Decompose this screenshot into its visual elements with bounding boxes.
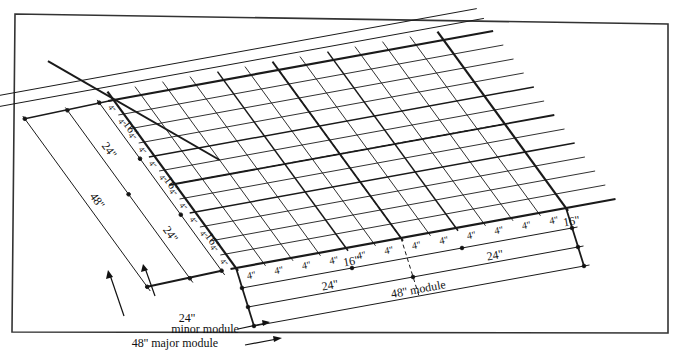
grid-line-depth xyxy=(382,42,513,221)
dim-tick xyxy=(179,213,183,217)
dim-tick xyxy=(460,246,464,250)
front-dimension-line xyxy=(248,246,584,307)
minor-module-arrow xyxy=(238,323,266,329)
left-arrow-1 xyxy=(110,275,124,316)
left-arrow-head-1 xyxy=(106,270,113,279)
grid-line-width xyxy=(129,59,514,129)
left-extension-line xyxy=(25,100,114,119)
grid-line-width xyxy=(0,18,484,110)
grid-line-depth xyxy=(437,32,568,211)
front-dim-16: 16'' xyxy=(562,213,581,230)
grid-line-width xyxy=(159,101,544,171)
left-arrow-2 xyxy=(145,268,155,296)
grid-line-depth xyxy=(217,72,348,251)
front-edge-label: 4'' xyxy=(493,224,504,236)
grid-line-depth xyxy=(327,52,458,231)
dimension-lines xyxy=(23,100,590,328)
grid-line-depth xyxy=(355,47,486,226)
front-edge-label: 4'' xyxy=(246,269,257,281)
grid-line-width xyxy=(139,73,524,143)
grid-line-depth xyxy=(300,57,431,236)
grid-line-width xyxy=(200,157,585,227)
figure-frame xyxy=(12,14,668,333)
minor-module-label: minor module xyxy=(171,322,239,336)
front-edge-label: 4'' xyxy=(438,234,449,246)
grid-line-depth xyxy=(135,87,266,266)
grid-line-width xyxy=(190,143,575,213)
dim-tick xyxy=(127,193,131,197)
dim-tick xyxy=(411,275,415,279)
dim-tick xyxy=(582,264,586,268)
front-edge-label: 4'' xyxy=(301,259,312,271)
grid-line-width xyxy=(0,9,477,101)
grid-line-width xyxy=(118,45,503,115)
front-edge-label: 4'' xyxy=(466,229,477,241)
front-dim-24: 24'' xyxy=(485,247,504,264)
grid-line-depth xyxy=(410,37,541,216)
grid-line-width xyxy=(149,87,534,157)
grid-line-width xyxy=(210,171,595,241)
grid-line-width xyxy=(108,31,493,101)
front-dim-48: 48'' module xyxy=(390,277,447,301)
front-edge-label: 4'' xyxy=(521,219,532,231)
dim-tick xyxy=(240,286,244,290)
dim-tick xyxy=(576,245,580,249)
front-dim-24: 24'' xyxy=(320,277,339,294)
dim-tick xyxy=(138,157,142,161)
major-module-label: 48'' major module xyxy=(132,336,218,350)
front-edge-label: 4'' xyxy=(411,239,422,251)
left-dimension-line xyxy=(23,116,150,291)
major-arrow-head xyxy=(273,336,282,342)
grid-line-depth xyxy=(245,67,376,246)
dim-tick xyxy=(246,305,250,309)
grid-line-depth xyxy=(162,82,293,261)
front-edge-label: 4'' xyxy=(273,264,284,276)
major-module-arrow xyxy=(245,339,277,345)
front-edge-label: 4'' xyxy=(383,244,394,256)
grid-line-width xyxy=(231,199,616,269)
grid-plane xyxy=(0,9,615,271)
left-extension-line xyxy=(147,271,221,287)
grid-line-width xyxy=(180,129,565,199)
front-dim-16: 16'' xyxy=(342,253,361,270)
modular-grid-diagram: 4''4''4''4''4''4''4''4''4''4''4''4''4''4… xyxy=(0,0,676,353)
grid-line-depth xyxy=(190,77,321,256)
front-edge-label: 4'' xyxy=(328,254,339,266)
major-module-line xyxy=(48,61,220,160)
left-arrow-head-2 xyxy=(141,264,148,272)
front-edge-label: 4'' xyxy=(548,214,559,226)
